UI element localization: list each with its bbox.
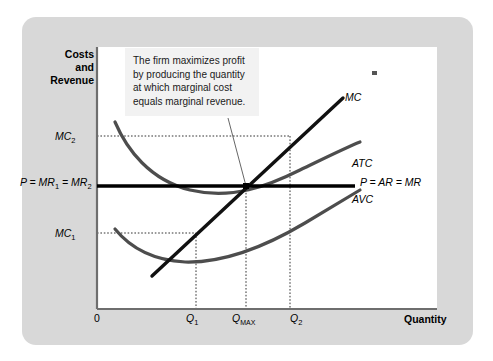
x-tick-q2: Q2: [290, 312, 302, 327]
curve-avc: [115, 190, 360, 262]
y-tick-p-mr: P = MR1 = MR2: [20, 176, 92, 191]
x-tick-q1: Q1: [186, 312, 198, 327]
scan-artifact-mark: [372, 71, 377, 75]
curve-label-avc: AVC: [352, 193, 373, 205]
figure-root: CostsandRevenue Quantity MC2 P = MR1 = M…: [0, 0, 493, 361]
curve-label-atc: ATC: [352, 157, 372, 169]
y-tick-mc2: MC2: [55, 130, 76, 145]
x-tick-zero: 0: [94, 312, 100, 324]
callout-leader-line: [228, 118, 246, 186]
curve-atc: [115, 122, 360, 193]
callout-annotation: The firm maximizes profit by producing t…: [125, 48, 259, 116]
y-axis-title: CostsandRevenue: [28, 48, 94, 87]
x-tick-qmax: QMAX: [232, 312, 255, 326]
intersection-marker-qmax: [243, 183, 249, 189]
x-axis-title: Quantity: [404, 313, 447, 326]
curve-label-p-ar-mr: P = AR = MR: [360, 176, 421, 188]
curve-label-mc: MC: [345, 91, 361, 103]
y-tick-mc1: MC1: [55, 227, 76, 242]
